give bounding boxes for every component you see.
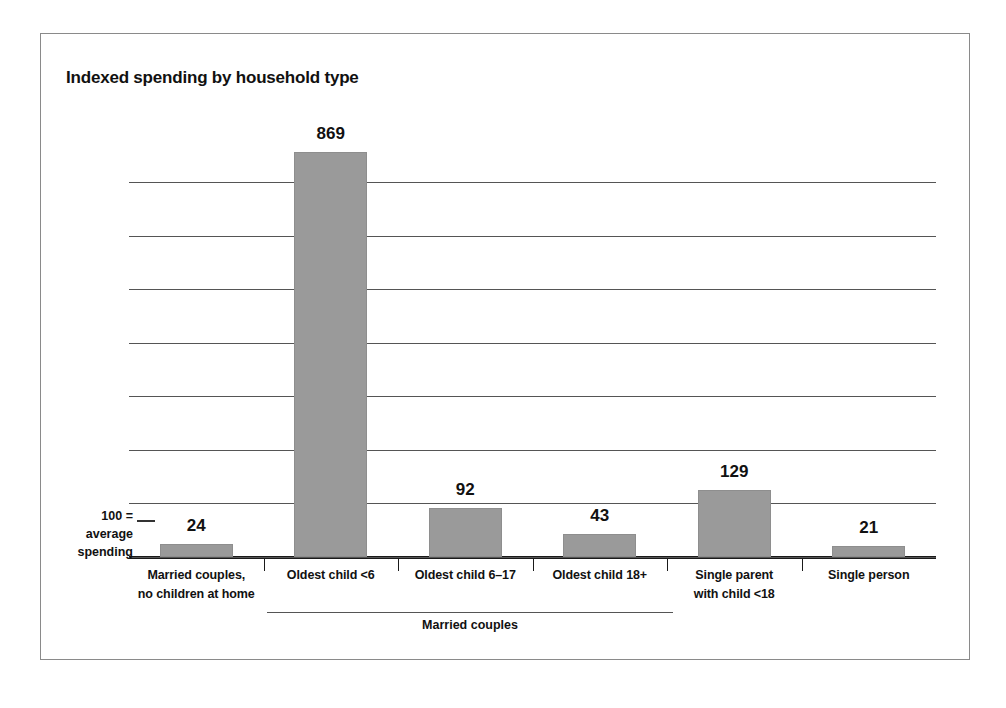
reference-note-line-3: spending — [61, 543, 133, 561]
category-label-line: Single person — [802, 566, 937, 585]
gridline — [129, 450, 936, 451]
bar — [160, 544, 233, 557]
gridline — [129, 503, 936, 504]
category-label-line: no children at home — [129, 585, 264, 604]
plot-area: 24869924312921 — [129, 182, 936, 557]
reference-line-annotation: 100 = average spending — [61, 507, 133, 561]
bar — [698, 490, 771, 557]
gridline — [129, 289, 936, 290]
bar — [563, 534, 636, 557]
gridline — [129, 557, 936, 558]
chart-figure-frame: Indexed spending by household type 24869… — [40, 33, 970, 660]
bar-value-label: 92 — [420, 480, 510, 500]
bar — [429, 508, 502, 557]
group-bracket-label: Married couples — [267, 618, 673, 632]
reference-note-line-1: 100 = — [61, 507, 133, 525]
category-label: Oldest child 18+ — [533, 566, 668, 585]
category-label-line: Oldest child <6 — [264, 566, 399, 585]
group-bracket-line — [267, 612, 673, 613]
reference-note-line-2: average — [61, 525, 133, 543]
bar-value-label: 21 — [824, 518, 914, 538]
category-label-line: Married couples, — [129, 566, 264, 585]
reference-line-dash — [137, 520, 155, 522]
bar-value-label: 24 — [151, 516, 241, 536]
category-label-line: Single parent — [667, 566, 802, 585]
bar-value-label: 129 — [689, 462, 779, 482]
bar — [294, 152, 367, 557]
gridline — [129, 182, 936, 183]
category-label: Oldest child 6–17 — [398, 566, 533, 585]
bar-value-label: 43 — [555, 506, 645, 526]
gridline — [129, 236, 936, 237]
category-label: Single person — [802, 566, 937, 585]
gridline — [129, 343, 936, 344]
category-label-line: Oldest child 6–17 — [398, 566, 533, 585]
bar-value-label: 869 — [286, 124, 376, 144]
chart-title: Indexed spending by household type — [66, 68, 359, 88]
category-label: Single parentwith child <18 — [667, 566, 802, 605]
bar — [832, 546, 905, 557]
category-label-line: Oldest child 18+ — [533, 566, 668, 585]
category-label-line: with child <18 — [667, 585, 802, 604]
gridline — [129, 396, 936, 397]
category-label: Oldest child <6 — [264, 566, 399, 585]
category-label: Married couples,no children at home — [129, 566, 264, 605]
